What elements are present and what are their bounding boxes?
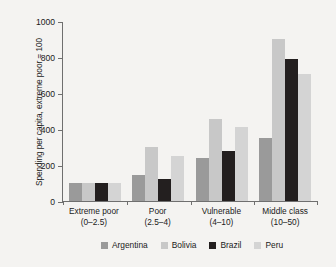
- bar-peru-3: [298, 74, 311, 201]
- y-tick-label-600: 600: [41, 89, 55, 99]
- bar-group-poor: [127, 22, 191, 201]
- bar-brazil-2: [222, 151, 235, 201]
- x-label-range: (0–2.5): [62, 217, 126, 228]
- bar-group-middle-class: [254, 22, 318, 201]
- bar-brazil-3: [285, 59, 298, 201]
- bar-peru-2: [235, 127, 248, 201]
- x-label-extreme-poor: Extreme poor(0–2.5): [62, 206, 126, 227]
- legend-swatch-icon: [254, 242, 261, 249]
- bar-brazil-1: [158, 179, 171, 201]
- chart-legend: ArgentinaBoliviaBrazilPeru: [62, 240, 322, 250]
- legend-item-argentina[interactable]: Argentina: [101, 240, 148, 250]
- y-tick-label-1000: 1000: [36, 17, 55, 27]
- legend-swatch-icon: [101, 242, 108, 249]
- x-label-name: Extreme poor: [69, 206, 119, 216]
- x-label-range: (4–10): [190, 217, 254, 228]
- x-label-range: (10–50): [253, 217, 317, 228]
- legend-label: Bolivia: [172, 240, 197, 250]
- x-tick-3: [254, 201, 255, 205]
- bar-brazil-0: [95, 183, 108, 201]
- bar-peru-1: [171, 156, 184, 201]
- legend-label: Argentina: [112, 240, 148, 250]
- x-tick-1: [127, 201, 128, 205]
- x-label-name: Vulnerable: [202, 206, 241, 216]
- x-label-poor: Poor(2.5–4): [126, 206, 190, 227]
- x-label-middle-class: Middle class(10–50): [253, 206, 317, 227]
- bar-groups: [63, 22, 317, 201]
- y-tick-label-800: 800: [41, 53, 55, 63]
- bar-group-extreme-poor: [63, 22, 127, 201]
- y-tick-label-0: 0: [50, 197, 55, 207]
- x-label-vulnerable: Vulnerable(4–10): [190, 206, 254, 227]
- bar-argentina-2: [196, 158, 209, 201]
- chart-figure: Spending per capita, extreme poor = 100 …: [0, 0, 336, 267]
- bar-argentina-3: [259, 138, 272, 201]
- x-tick-2: [191, 201, 192, 205]
- x-label-name: Middle class: [262, 206, 308, 216]
- legend-item-bolivia[interactable]: Bolivia: [161, 240, 197, 250]
- legend-item-peru[interactable]: Peru: [254, 240, 283, 250]
- bar-bolivia-3: [272, 39, 285, 201]
- bar-argentina-1: [132, 175, 145, 201]
- bar-bolivia-0: [82, 183, 95, 201]
- x-axis-labels: Extreme poor(0–2.5)Poor(2.5–4)Vulnerable…: [62, 206, 317, 227]
- legend-swatch-icon: [209, 242, 216, 249]
- y-tick-label-400: 400: [41, 125, 55, 135]
- x-tick-0: [63, 201, 64, 205]
- x-label-range: (2.5–4): [126, 217, 190, 228]
- bar-argentina-0: [69, 183, 82, 201]
- x-tick-4: [317, 201, 318, 205]
- bar-peru-0: [108, 183, 121, 201]
- legend-label: Brazil: [220, 240, 241, 250]
- legend-swatch-icon: [161, 242, 168, 249]
- legend-label: Peru: [265, 240, 283, 250]
- legend-item-brazil[interactable]: Brazil: [209, 240, 241, 250]
- plot-area: Spending per capita, extreme poor = 100 …: [62, 22, 317, 202]
- x-label-name: Poor: [149, 206, 167, 216]
- y-axis-title: Spending per capita, extreme poor = 100: [34, 12, 44, 212]
- bar-bolivia-2: [209, 119, 222, 201]
- bar-bolivia-1: [145, 147, 158, 201]
- bar-group-vulnerable: [190, 22, 254, 201]
- y-tick-label-200: 200: [41, 161, 55, 171]
